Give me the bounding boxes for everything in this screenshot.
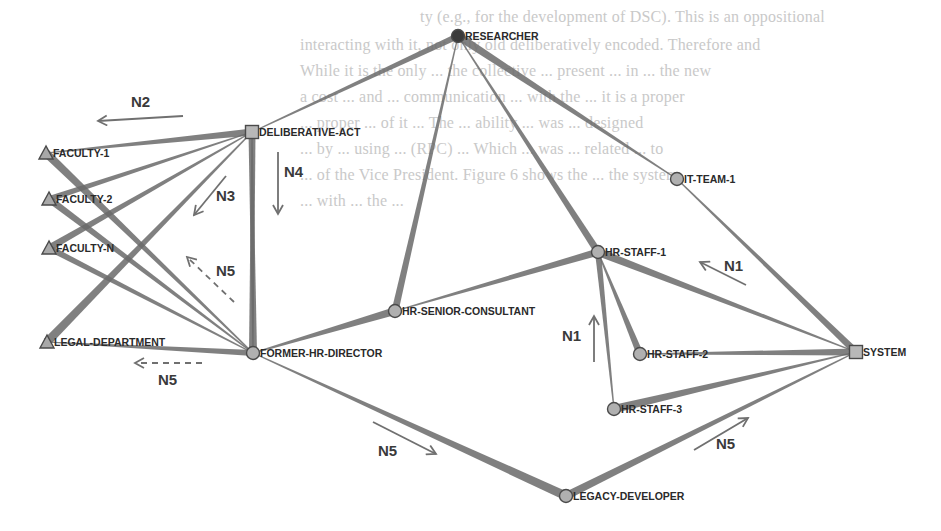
node-former-hr-director[interactable]: FORMER-HR-DIRECTOR xyxy=(247,347,383,360)
node-label: FACULTY-1 xyxy=(53,147,110,159)
node-label: DELIBERATIVE-ACT xyxy=(259,126,361,138)
flow-label-n5: N5 xyxy=(216,262,235,279)
node-faculty-2[interactable]: FACULTY-2 xyxy=(42,192,113,205)
node-hr-senior-consultant[interactable]: HR-SENIOR-CONSULTANT xyxy=(389,305,536,318)
edge-hr-senior-consultant-to-hr-staff-1 xyxy=(395,249,599,312)
flow-arrow-n2 xyxy=(98,116,183,121)
circle-node-icon xyxy=(452,30,465,43)
circle-node-icon xyxy=(560,490,573,503)
circle-node-icon xyxy=(247,347,260,360)
flow-label-n5: N5 xyxy=(378,442,397,459)
node-legacy-developer[interactable]: LEGACY-DEVELOPER xyxy=(560,490,685,503)
edge-former-hr-director-to-legacy-developer xyxy=(253,353,568,501)
node-label: FORMER-HR-DIRECTOR xyxy=(260,347,383,359)
edge-legacy-developer-to-system xyxy=(564,352,856,500)
edge-researcher-to-it-team-1 xyxy=(456,33,678,180)
circle-node-icon xyxy=(671,173,684,186)
flow-label-n5: N5 xyxy=(158,371,177,388)
nodes-layer: RESEARCHERDELIBERATIVE-ACTFACULTY-1FACUL… xyxy=(39,30,906,503)
node-it-team-1[interactable]: IT-TEAM-1 xyxy=(671,173,736,186)
node-label: HR-STAFF-2 xyxy=(647,348,708,360)
square-node-icon xyxy=(850,346,863,359)
circle-node-icon xyxy=(592,246,605,259)
node-label: FACULTY-2 xyxy=(56,193,113,205)
node-deliberative-act[interactable]: DELIBERATIVE-ACT xyxy=(246,126,361,139)
network-diagram: N2N4N3N5N5N5N1N1N5 RESEARCHERDELIBERATIV… xyxy=(0,0,941,531)
flow-label-n4: N4 xyxy=(284,163,304,180)
node-label: HR-STAFF-1 xyxy=(605,246,666,258)
node-label: IT-TEAM-1 xyxy=(684,173,735,185)
node-label: HR-STAFF-3 xyxy=(621,403,682,415)
edge-researcher-to-hr-staff-1 xyxy=(458,36,601,254)
node-label: HR-SENIOR-CONSULTANT xyxy=(402,305,536,317)
node-hr-staff-3[interactable]: HR-STAFF-3 xyxy=(608,403,683,416)
flow-label-n1: N1 xyxy=(562,327,581,344)
node-label: LEGAL-DEPARTMENT xyxy=(54,336,166,348)
node-researcher[interactable]: RESEARCHER xyxy=(452,30,539,43)
circle-node-icon xyxy=(634,348,647,361)
edge-it-team-1-to-system xyxy=(677,179,859,355)
square-node-icon xyxy=(246,126,259,139)
flow-label-n2: N2 xyxy=(131,93,150,110)
circle-node-icon xyxy=(608,403,621,416)
node-legal-department[interactable]: LEGAL-DEPARTMENT xyxy=(40,335,166,348)
edge-deliberative-act-to-researcher xyxy=(252,33,460,132)
node-system[interactable]: SYSTEM xyxy=(850,346,907,359)
flow-label-n3: N3 xyxy=(216,187,235,204)
node-hr-staff-1[interactable]: HR-STAFF-1 xyxy=(592,246,667,259)
circle-node-icon xyxy=(389,305,402,318)
node-label: SYSTEM xyxy=(863,346,906,358)
flow-label-n5: N5 xyxy=(716,435,735,452)
edge-legal-department-to-deliberative-act xyxy=(44,132,253,346)
node-hr-staff-2[interactable]: HR-STAFF-2 xyxy=(634,348,709,361)
edge-hr-senior-consultant-to-researcher xyxy=(392,36,459,312)
node-label: LEGACY-DEVELOPER xyxy=(573,490,685,502)
node-label: FACULTY-N xyxy=(56,242,114,254)
flow-label-n1: N1 xyxy=(724,257,743,274)
node-faculty-1[interactable]: FACULTY-1 xyxy=(39,146,110,159)
node-label: RESEARCHER xyxy=(465,30,539,42)
edge-hr-staff-1-to-hr-staff-3 xyxy=(595,252,615,409)
